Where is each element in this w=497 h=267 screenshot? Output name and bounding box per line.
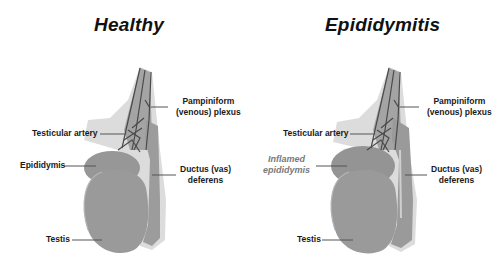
inflamed-epididymis-label: Inflamed epididymis: [263, 154, 310, 176]
testis: [331, 170, 397, 254]
testicular-artery-label: Testicular artery: [283, 128, 349, 139]
testis: [84, 170, 148, 253]
ductus-deferens-label: Ductus (vas) deferens: [180, 164, 231, 186]
healthy-panel: Healthy P: [0, 0, 248, 267]
testis-label: Testis: [46, 234, 70, 245]
epididymitis-panel: Epididymitis Pampiniform: [249, 0, 497, 267]
testicular-artery-label: Testicular artery: [32, 128, 98, 139]
testis-label: Testis: [297, 234, 321, 245]
epididymis-label: Epididymis: [20, 160, 65, 171]
ductus-deferens-label: Ductus (vas) deferens: [431, 164, 482, 186]
pampiniform-plexus-label: Pampiniform (venous) plexus: [427, 96, 492, 118]
pampiniform-plexus-label: Pampiniform (venous) plexus: [176, 96, 241, 118]
